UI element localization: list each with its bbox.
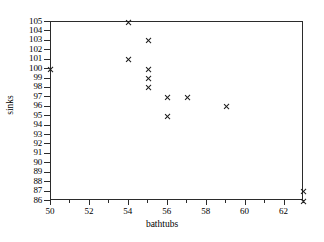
x-axis-tick-label: 58 (193, 206, 219, 216)
y-axis-tick-label: 91 (12, 148, 42, 157)
x-axis-tick-label: 50 (37, 206, 63, 216)
x-axis-minor-tick (303, 200, 304, 203)
y-axis-tick-label: 103 (12, 35, 42, 44)
y-axis-tick (44, 49, 50, 50)
y-axis-tick (44, 106, 50, 107)
x-axis-tick (206, 200, 207, 205)
x-axis-minor-tick (225, 200, 226, 203)
y-axis-tick (44, 115, 50, 116)
x-axis-tick (128, 200, 129, 205)
y-axis-tick-label: 97 (12, 92, 42, 101)
data-point (145, 37, 152, 44)
data-point (145, 66, 152, 73)
scatter-chart: sinks bathtubs 8687888990919293949596979… (0, 0, 324, 242)
y-axis-tick-label: 92 (12, 139, 42, 148)
y-axis-tick-label: 99 (12, 73, 42, 82)
x-axis-minor-tick (147, 200, 148, 203)
x-axis-tick (50, 200, 51, 205)
y-axis-tick-label: 96 (12, 101, 42, 110)
x-axis-title: bathtubs (0, 219, 324, 229)
y-axis-tick (44, 153, 50, 154)
y-axis-tick (44, 40, 50, 41)
y-axis-tick (44, 68, 50, 69)
y-axis-tick-label: 105 (12, 17, 42, 26)
y-axis-tick (44, 172, 50, 173)
x-axis-tick (167, 200, 168, 205)
data-series (51, 22, 302, 199)
y-axis-tick (44, 21, 50, 22)
y-axis-tick-label: 90 (12, 158, 42, 167)
y-axis-tick-label: 104 (12, 26, 42, 35)
y-axis-tick-label: 88 (12, 177, 42, 186)
y-axis-tick-label: 86 (12, 196, 42, 205)
data-point (125, 56, 132, 63)
y-axis-tick (44, 162, 50, 163)
x-axis-tick-label: 56 (154, 206, 180, 216)
x-axis-tick (284, 200, 285, 205)
data-point (145, 75, 152, 82)
x-axis-tick (89, 200, 90, 205)
y-axis-tick-label: 95 (12, 111, 42, 120)
x-axis-tick-label: 60 (232, 206, 258, 216)
y-axis-tick (44, 125, 50, 126)
y-axis-tick (44, 143, 50, 144)
y-axis-tick-label: 100 (12, 64, 42, 73)
x-axis-tick (245, 200, 246, 205)
y-axis-tick (44, 78, 50, 79)
x-axis-minor-tick (264, 200, 265, 203)
x-axis-minor-tick (186, 200, 187, 203)
data-point (145, 84, 152, 91)
y-axis-tick (44, 181, 50, 182)
data-point (301, 188, 308, 195)
x-axis-minor-tick (108, 200, 109, 203)
y-axis-tick-label: 93 (12, 130, 42, 139)
y-axis-tick-label: 94 (12, 120, 42, 129)
x-axis-tick-label: 62 (271, 206, 297, 216)
y-axis-tick (44, 96, 50, 97)
data-point (301, 198, 308, 205)
y-axis-tick-label: 89 (12, 167, 42, 176)
y-axis-tick-label: 102 (12, 45, 42, 54)
x-axis-minor-tick (69, 200, 70, 203)
y-axis-tick-label: 101 (12, 54, 42, 63)
y-axis-tick-label: 98 (12, 82, 42, 91)
data-point (184, 94, 191, 101)
y-axis-tick (44, 30, 50, 31)
y-axis-tick (44, 87, 50, 88)
data-point (164, 94, 171, 101)
y-axis-tick (44, 134, 50, 135)
data-point (164, 113, 171, 120)
x-axis-tick-label: 54 (115, 206, 141, 216)
y-axis-tick (44, 59, 50, 60)
data-point (48, 66, 55, 73)
y-axis-tick (44, 191, 50, 192)
data-point (223, 103, 230, 110)
y-axis-tick-label: 87 (12, 186, 42, 195)
plot-area (50, 21, 303, 200)
data-point (125, 19, 132, 26)
x-axis-tick-label: 52 (76, 206, 102, 216)
